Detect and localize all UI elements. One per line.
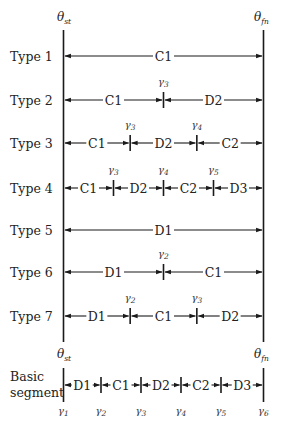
segment-label: C1 [80,181,98,196]
segment-label: D2 [155,136,173,151]
basic-gamma-label: γ4 [176,405,187,418]
gamma-label: γ3 [158,76,169,89]
basic-gamma-label: γ5 [216,405,227,418]
gamma-label: γ5 [208,164,219,177]
segment-label: C2 [192,378,210,393]
basic-segment-label-line1: Basic [10,369,44,384]
basic-gamma-label: γ1 [58,405,69,418]
row-label: Type 2 [10,93,53,108]
segment-label: D1 [155,223,173,238]
segment-label: D1 [88,309,106,324]
segment-label: C1 [155,49,173,64]
gamma-label: γ4 [158,164,169,177]
segment-label: D2 [130,181,148,196]
gamma-label: γ4 [191,119,202,132]
segment-label: D1 [73,378,91,393]
row-label: Type 7 [10,309,53,324]
theta-end-label: θfn [254,10,269,26]
segment-label: D2 [152,378,170,393]
gamma-label: γ3 [191,292,202,305]
theta-end-label-bottom: θfn [254,347,269,363]
segment-label: C1 [88,136,106,151]
basic-gamma-label: γ3 [136,405,147,418]
row-label: Type 4 [10,181,53,196]
segment-label: D3 [230,181,248,196]
basic-gamma-label: γ6 [258,405,269,418]
row-type-4: Type 4C1D2C2D3γ3γ4γ5 [10,164,262,196]
segment-label: D2 [205,93,223,108]
theta-start-label-bottom: θst [57,347,72,363]
row-type-5: Type 5D1 [10,223,262,238]
basic-segment-label-line2: segment [10,385,64,400]
row-type-2: Type 2C1D2γ3 [10,76,262,108]
row-type-6: Type 6D1C1γ2 [10,248,262,280]
row-label: Type 3 [10,136,53,151]
basic-gamma-label: γ2 [96,405,107,418]
row-type-3: Type 3C1D2C2γ3γ4 [10,119,262,151]
segment-label: C1 [155,309,173,324]
gamma-label: γ3 [125,119,136,132]
row-label: Type 5 [10,223,53,238]
theta-start-label: θst [57,10,72,26]
row-type-7: Type 7D1C1D2γ2γ3 [10,292,262,324]
segment-label: C1 [105,93,123,108]
segment-types-diagram: θst θfn Type 1C1Type 2C1D2γ3Type 3C1D2C2… [0,0,282,428]
gamma-label: γ2 [158,248,169,261]
row-label: Type 1 [10,49,53,64]
segment-label: D1 [105,265,123,280]
segment-label: C1 [205,265,223,280]
gamma-label: γ3 [108,164,119,177]
row-label: Type 6 [10,265,53,280]
segment-label: D2 [221,309,239,324]
segment-label: C1 [112,378,130,393]
row-type-1: Type 1C1 [10,49,262,64]
segment-label: C2 [180,181,198,196]
gamma-label: γ2 [125,292,136,305]
segment-label: D3 [233,378,251,393]
segment-label: C2 [221,136,239,151]
